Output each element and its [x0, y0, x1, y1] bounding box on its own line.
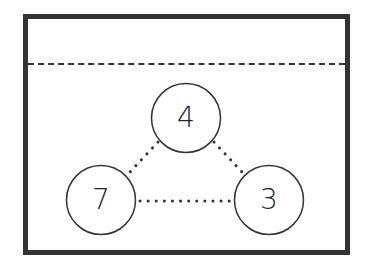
node-left-label: 7 [66, 165, 136, 235]
node-right-label: 3 [234, 165, 304, 235]
node-top-label: 4 [151, 83, 221, 153]
